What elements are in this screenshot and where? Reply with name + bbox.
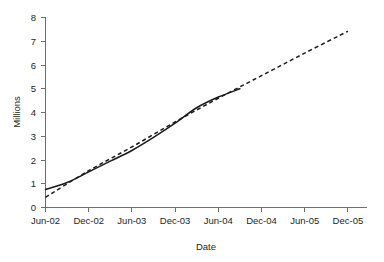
series-trend-dashed (46, 31, 348, 197)
y-tick-label: 8 (31, 12, 36, 23)
y-tick-label: 4 (31, 107, 36, 118)
x-tick-label: Dec-05 (333, 215, 364, 226)
series-actual-solid (46, 89, 240, 190)
x-tick-label: Jun-03 (117, 215, 146, 226)
x-tick-label: Dec-03 (160, 215, 191, 226)
y-tick-label: 6 (31, 60, 36, 71)
y-tick-label: 5 (31, 83, 36, 94)
y-axis-tick-labels: 8 7 6 5 4 3 2 1 0 (31, 12, 36, 213)
x-tick-label: Dec-04 (246, 215, 277, 226)
x-axis-title: Date (196, 241, 216, 252)
x-tick-label: Jun-02 (31, 215, 60, 226)
x-axis-ticks (46, 208, 348, 213)
y-tick-label: 1 (31, 178, 36, 189)
y-axis-ticks (41, 18, 46, 208)
y-tick-label: 2 (31, 155, 36, 166)
x-axis-tick-labels: Jun-02 Dec-02 Jun-03 Dec-03 Jun-04 Dec-0… (31, 215, 363, 226)
x-tick-label: Dec-02 (73, 215, 104, 226)
y-axis-title: Millions (11, 96, 22, 128)
y-tick-label: 3 (31, 131, 36, 142)
x-tick-label: Jun-05 (290, 215, 319, 226)
y-tick-label: 7 (31, 36, 36, 47)
chart-container: 8 7 6 5 4 3 2 1 0 Jun-02 Dec-02 Jun-03 D (0, 0, 384, 262)
x-tick-label: Jun-04 (204, 215, 233, 226)
line-chart: 8 7 6 5 4 3 2 1 0 Jun-02 Dec-02 Jun-03 D (0, 0, 384, 262)
y-tick-label: 0 (31, 202, 36, 213)
